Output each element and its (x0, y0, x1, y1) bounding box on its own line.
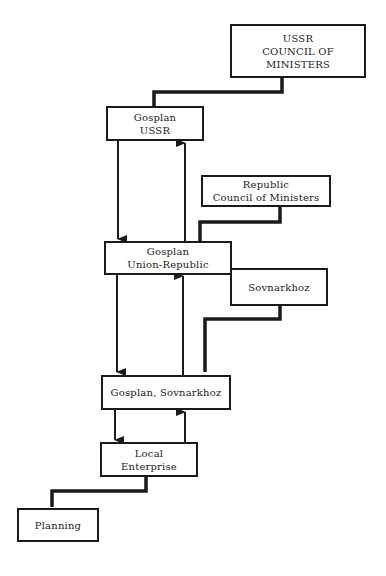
node-label: Sovnarkhoz (248, 281, 310, 294)
connector-local-to-planning (52, 475, 146, 507)
node-sovnarkhoz: Sovnarkhoz (230, 268, 328, 306)
node-local-enterprise: LocalEnterprise (100, 442, 198, 477)
node-label: COUNCIL OF MINISTERS (232, 45, 364, 71)
connector-ussr-to-gosplan (154, 76, 282, 107)
node-ussr-council: USSRCOUNCIL OF MINISTERS (230, 24, 366, 78)
node-gosplan-union-republic: GosplanUnion-Republic (104, 241, 232, 275)
node-label: Enterprise (121, 460, 177, 473)
node-label: Planning (35, 519, 81, 532)
node-gosplan-ussr: GosplanUSSR (106, 106, 204, 141)
node-label: Republic (213, 178, 320, 191)
node-label: Council of Ministers (213, 191, 320, 204)
connector-sovnarkhoz-to-gosplan-sov (205, 305, 280, 372)
node-label: USSR (232, 32, 364, 45)
node-label: Gosplan, Sovnarkhoz (111, 386, 222, 399)
node-planning: Planning (17, 508, 99, 542)
connector-republic-to-union (200, 207, 280, 242)
node-label: USSR (134, 124, 177, 137)
node-label: Gosplan (127, 245, 208, 258)
connector-layer (0, 0, 386, 576)
node-label: Local (121, 447, 177, 460)
node-label: Union-Republic (127, 258, 208, 271)
node-republic-council: RepublicCouncil of Ministers (201, 175, 331, 207)
node-gosplan-sovnarkhoz: Gosplan, Sovnarkhoz (101, 375, 231, 410)
node-label: Gosplan (134, 111, 177, 124)
